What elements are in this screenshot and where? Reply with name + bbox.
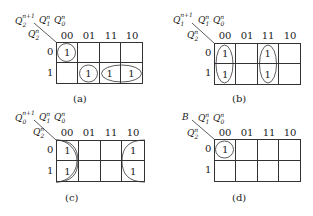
row-header: 0 [47,46,53,57]
kmap-cell [236,44,257,64]
column-header: 10 [279,127,301,138]
kmap-a: Q2n+1 Q1nQ0n Q2n 00 01 11 10 0 1 1 1 1 1… [0,0,156,108]
column-header: 10 [121,30,143,41]
output-variable-label: Q2n+1 [15,14,39,28]
column-header: 10 [279,30,301,41]
row-header: 0 [205,143,211,154]
kmap-cell: 1 [57,141,79,161]
kmap-cell [100,43,121,63]
column-variables-label: Q1nQ0n [39,13,69,27]
column-header: 00 [56,127,78,138]
kmap-cell [121,43,142,63]
output-variable-label: Q1n+1 [173,13,197,27]
kmap-cell [258,140,279,161]
column-header: 01 [236,127,258,138]
kmap-cell: 1 [215,64,236,84]
row-header: 0 [205,47,211,58]
row-header: 1 [47,165,53,176]
kmap-cell: 1 [122,141,144,161]
column-header: 11 [258,127,280,138]
kmap-cell: 1 [100,63,121,83]
kmap-cell [78,43,99,63]
row-variable-label: Q2n [187,28,202,42]
kmap-cell [279,44,300,64]
caption: (a) [73,93,87,104]
kmap-cell: 1 [215,44,236,64]
kmap-cell [79,141,101,161]
kmap-cell [57,63,78,83]
row-header: 1 [47,67,53,78]
kmap-cell [101,141,123,161]
kmap-grid: 1 [214,139,301,182]
kmap-cell: 1 [258,64,279,84]
row-header: 1 [205,164,211,175]
kmap-cell: 1 [57,161,79,181]
row-variable-label: Q2n [28,27,43,41]
row-header: 0 [47,144,53,155]
column-header: 01 [78,30,100,41]
caption: (c) [65,192,78,203]
kmap-grid: 1 1 1 1 [56,42,143,84]
row-header: 1 [205,67,211,78]
kmap-cell: 1 [258,44,279,64]
kmap-cell [279,161,300,182]
kmap-cell: 1 [122,161,144,181]
column-variables-label: Q1nQ0n [198,111,228,125]
kmap-b: Q1n+1 Q1nQ0n Q2n 00 01 11 10 0 1 1 1 1 1… [157,0,313,108]
caption: (b) [232,93,246,104]
kmap-cell [236,140,257,161]
column-header: 10 [122,127,144,138]
kmap-cell [279,140,300,161]
column-header: 00 [56,30,78,41]
kmap-cell: 1 [78,63,99,83]
kmap-cell: 1 [121,63,142,83]
row-variable-label: Q2n [187,126,202,140]
caption: (d) [232,192,246,203]
column-variables-label: Q1nQ0n [198,13,228,27]
output-variable-label: Q0n+1 [15,111,39,125]
column-variables-label: Q1nQ0n [39,110,69,124]
output-variable-label: B [182,112,189,122]
column-header: 01 [78,127,100,138]
kmap-cell [236,64,257,84]
kmap-cell [279,64,300,84]
kmap-cell [79,161,101,181]
column-header: 00 [214,127,236,138]
kmap-cell: 1 [215,140,236,161]
kmap-cell [236,161,257,182]
kmap-grid: 1 1 1 1 [56,140,145,182]
kmap-c: Q0n+1 Q1nQ0n Q2n 00 01 11 10 0 1 1 1 1 1… [0,108,156,216]
row-variable-label: Q2n [33,125,48,139]
column-header: 11 [100,30,122,41]
column-header: 11 [100,127,122,138]
kmap-grid: 1 1 1 1 [214,43,301,85]
kmap-d: B Q1nQ0n Q2n 00 01 11 10 0 1 1 (d) [157,108,313,216]
column-header: 00 [214,30,236,41]
kmap-cell [215,161,236,182]
column-header: 11 [257,30,279,41]
kmap-cell [101,161,123,181]
kmap-cell: 1 [57,43,78,63]
kmap-cell [258,161,279,182]
column-header: 01 [236,30,258,41]
